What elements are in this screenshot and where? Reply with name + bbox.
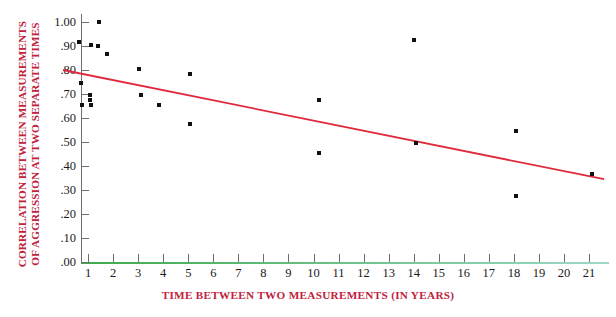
y-tick-mark xyxy=(81,238,89,239)
x-tick-label: 7 xyxy=(226,267,250,280)
x-tick-label: 14 xyxy=(402,267,426,280)
y-tick-mark xyxy=(81,118,89,119)
data-point xyxy=(96,44,100,48)
y-tick-mark xyxy=(81,46,89,47)
x-tick-label: 1 xyxy=(76,267,100,280)
y-tick-mark xyxy=(81,22,89,23)
data-point xyxy=(80,103,84,107)
x-tick-label: 8 xyxy=(251,267,275,280)
x-tick-label: 10 xyxy=(302,267,326,280)
y-tick-mark xyxy=(81,142,89,143)
x-tick-label: 5 xyxy=(176,267,200,280)
data-point xyxy=(412,38,416,42)
data-point xyxy=(77,40,81,44)
data-point xyxy=(414,141,418,145)
x-tick-label: 20 xyxy=(552,267,576,280)
data-point xyxy=(188,122,192,126)
y-tick-mark xyxy=(81,190,89,191)
y-tick-label: 1.00 xyxy=(40,16,76,29)
scatter-plot-figure: CORRELATION BETWEEN MEASUREMENTS OF AGGR… xyxy=(0,0,616,317)
data-point xyxy=(188,72,192,76)
x-tick-label: 16 xyxy=(452,267,476,280)
y-tick-label: .20 xyxy=(40,208,76,221)
data-point xyxy=(137,67,141,71)
x-tick-label: 13 xyxy=(377,267,401,280)
y-tick-label: .40 xyxy=(40,160,76,173)
y-tick-mark xyxy=(81,166,89,167)
data-point xyxy=(88,98,92,102)
x-tick-label: 19 xyxy=(527,267,551,280)
y-tick-label: .60 xyxy=(40,112,76,125)
data-point xyxy=(89,103,93,107)
y-axis-title-line-1: CORRELATION BETWEEN MEASUREMENTS xyxy=(16,21,29,267)
x-tick-label: 12 xyxy=(352,267,376,280)
data-point xyxy=(88,93,92,97)
data-point xyxy=(89,43,93,47)
x-tick-label: 15 xyxy=(427,267,451,280)
y-tick-label: .90 xyxy=(40,40,76,53)
data-point xyxy=(514,194,518,198)
data-point xyxy=(139,93,143,97)
x-tick-label: 17 xyxy=(477,267,501,280)
data-point xyxy=(157,103,161,107)
y-tick-label: .70 xyxy=(40,88,76,101)
y-tick-label: .50 xyxy=(40,136,76,149)
x-tick-label: 21 xyxy=(577,267,601,280)
y-tick-mark xyxy=(81,70,89,71)
data-point xyxy=(105,52,109,56)
x-tick-label: 4 xyxy=(151,267,175,280)
y-tick-label: .80 xyxy=(40,64,76,77)
y-tick-mark xyxy=(81,214,89,215)
y-tick-label: .10 xyxy=(40,232,76,245)
x-axis-tick-labels: 123456789101112131415161718192021 xyxy=(0,267,616,285)
x-tick-label: 3 xyxy=(126,267,150,280)
data-point xyxy=(317,98,321,102)
data-point xyxy=(317,151,321,155)
data-point xyxy=(97,20,101,24)
x-tick-label: 11 xyxy=(327,267,351,280)
data-point xyxy=(514,129,518,133)
y-tick-mark xyxy=(81,262,89,263)
x-tick-label: 2 xyxy=(101,267,125,280)
x-axis-title: TIME BETWEEN TWO MEASUREMENTS (IN YEARS) xyxy=(0,289,616,301)
plot-area xyxy=(81,14,609,262)
data-point xyxy=(590,172,594,176)
x-tick-label: 6 xyxy=(201,267,225,280)
y-tick-label: .30 xyxy=(40,184,76,197)
x-tick-label: 18 xyxy=(502,267,526,280)
x-tick-label: 9 xyxy=(276,267,300,280)
data-point xyxy=(79,81,83,85)
